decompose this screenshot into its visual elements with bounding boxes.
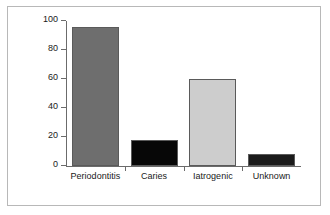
bar	[131, 140, 178, 166]
y-axis-tick-label: 100	[43, 14, 58, 24]
bar	[189, 79, 236, 166]
y-axis-tick-label: 60	[48, 72, 58, 82]
y-axis-tick-label: 80	[48, 43, 58, 53]
y-axis-tick: 100	[61, 20, 66, 21]
bar	[72, 27, 119, 166]
x-axis-category-label: Periodontitis	[66, 171, 125, 181]
x-axis-category-label: Unknown	[242, 171, 301, 181]
chart-figure: Lost teeth (No.) 020406080100 Periodonti…	[0, 0, 330, 215]
x-axis-category-label: Caries	[125, 171, 184, 181]
x-axis-category-label: Iatrogenic	[184, 171, 243, 181]
y-axis-tick-label: 40	[48, 101, 58, 111]
y-axis-tick: 80	[61, 49, 66, 50]
y-axis-tick: 60	[61, 78, 66, 79]
y-axis-tick-label: 20	[48, 130, 58, 140]
y-axis-tick: 40	[61, 107, 66, 108]
y-axis-tick-label: 0	[53, 159, 58, 169]
y-axis-tick: 20	[61, 136, 66, 137]
bar	[248, 154, 295, 166]
plot-area: 020406080100 PeriodontitisCariesIatrogen…	[66, 21, 301, 167]
y-axis-tick: 0	[61, 165, 66, 166]
